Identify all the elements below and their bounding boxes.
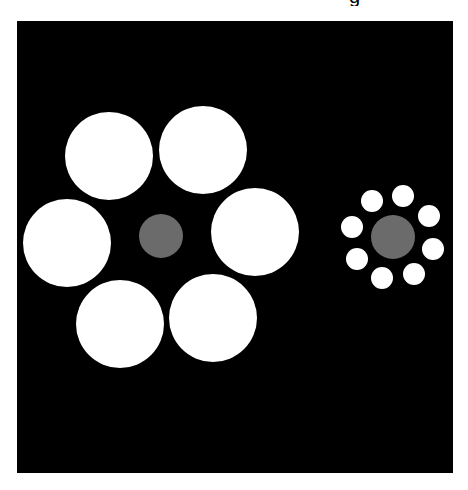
cropped-caption: g: [0, 0, 468, 6]
left-surround-circle-5: [76, 280, 164, 368]
left-surround-circle-6: [23, 199, 111, 287]
right-surround-circle-6: [371, 267, 393, 289]
right-surround-circle-2: [392, 185, 414, 207]
right-target-circle: [371, 215, 415, 259]
right-cluster-small-surround: [341, 185, 444, 289]
left-cluster-large-surround: [23, 106, 299, 368]
illusion-panel: [17, 21, 453, 473]
caption-letter: g: [349, 0, 360, 6]
right-surround-circle-7: [346, 248, 368, 270]
right-surround-circle-3: [418, 205, 440, 227]
left-surround-circle-3: [211, 188, 299, 276]
left-target-circle: [139, 214, 183, 258]
left-surround-circle-1: [65, 112, 153, 200]
right-surround-circle-1: [361, 190, 383, 212]
illusion-canvas: [17, 21, 453, 473]
right-surround-circle-4: [422, 238, 444, 260]
right-surround-circle-8: [341, 216, 363, 238]
left-surround-circle-4: [169, 274, 257, 362]
right-surround-circle-5: [403, 263, 425, 285]
left-surround-circle-2: [159, 106, 247, 194]
